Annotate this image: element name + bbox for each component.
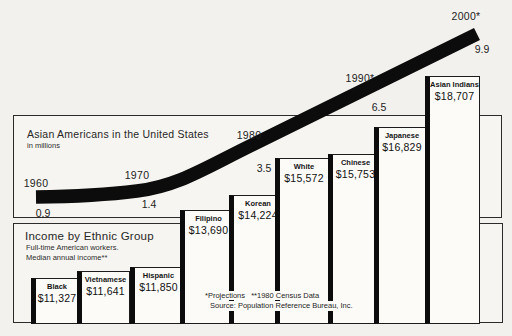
income-bar-value: $18,707 (430, 90, 479, 102)
footnote-projections: *Projections (203, 291, 247, 300)
income-bar-value: $11,850 (135, 281, 182, 293)
income-bar-value: $11,641 (82, 285, 129, 297)
income-bar-label: Japanese (379, 131, 425, 140)
footnotes: *Projections **1980 Census Data Source: … (203, 291, 355, 311)
income-bar-label: Asian Indians (430, 80, 479, 89)
decade-label-2000: 2000* (452, 10, 481, 22)
income-panel-title: Income by Ethnic Group (25, 230, 154, 242)
population-panel-subtitle: in millions (27, 141, 60, 150)
income-bar-vietnamese: Vietnamese$11,641 (77, 271, 130, 324)
income-bar-value: $13,690 (185, 224, 232, 236)
income-bar-value: $11,327 (36, 292, 78, 304)
income-bar-label: Hispanic (135, 271, 182, 280)
population-panel-title: Asian Americans in the United States (27, 128, 209, 140)
income-bar-black: Black$11,327 (31, 278, 79, 324)
population-value-1970: 1.4 (142, 198, 157, 210)
income-bar-label: Black (36, 282, 78, 291)
income-bar-label: Filipino (185, 214, 232, 223)
population-value-1980: 3.5 (257, 162, 272, 174)
income-panel-subtitle-1: Full-time American workers. (26, 243, 119, 252)
income-bar-asian-indians: Asian Indians$18,707 (425, 76, 480, 324)
income-bar-value: $15,572 (280, 172, 328, 184)
population-value-2000: 9.9 (475, 43, 490, 55)
footnote-source: Source: Population Reference Bureau, Inc… (208, 301, 355, 311)
decade-label-1980: 1980 (237, 129, 262, 141)
income-bar-value: $16,829 (379, 141, 425, 153)
decade-label-1960: 1960 (24, 177, 49, 189)
infographic-canvas: Asian Americans in the United States in … (0, 0, 512, 336)
footnote-census: **1980 Census Data (249, 291, 321, 300)
population-value-1990: 6.5 (372, 101, 387, 113)
decade-label-1990: 1990* (346, 72, 375, 84)
income-bar-label: White (280, 162, 328, 171)
income-bar-hispanic: Hispanic$11,850 (130, 267, 183, 324)
income-panel-subtitle-2: Median annual income** (26, 253, 107, 262)
income-bar-japanese: Japanese$16,829 (374, 127, 426, 324)
decade-label-1970: 1970 (125, 169, 150, 181)
income-bar-value: $15,753 (333, 168, 378, 180)
population-value-1960: 0.9 (36, 207, 51, 219)
income-bar-label: Chinese (333, 158, 378, 167)
income-bar-label: Vietnamese (82, 275, 129, 284)
